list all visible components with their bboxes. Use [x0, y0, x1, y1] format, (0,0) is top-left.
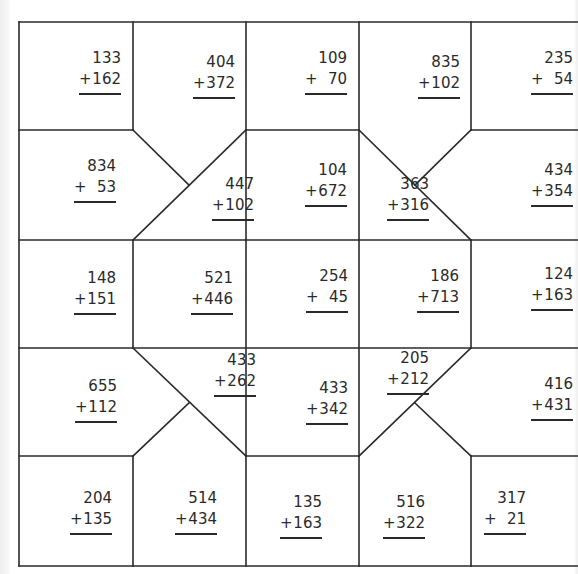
- answer-line: [383, 537, 425, 539]
- addend-top: 404: [171, 52, 235, 73]
- answer-line: [484, 533, 526, 535]
- addend-top: 521: [169, 268, 233, 289]
- addend-bottom: 163: [293, 513, 322, 534]
- answer-line: [531, 419, 573, 421]
- addend-bottom-row: +672: [305, 181, 347, 202]
- addend-bottom-row: +434: [175, 509, 217, 530]
- addition-problem: 205+212: [365, 348, 429, 395]
- addend-bottom-row: +212: [387, 369, 429, 390]
- addend-top: 363: [365, 174, 429, 195]
- addend-bottom-row: +21: [484, 509, 526, 530]
- addend-bottom-row: +713: [417, 287, 459, 308]
- plus-sign: +: [306, 287, 319, 308]
- answer-line: [75, 421, 117, 423]
- addition-problem: 835+102: [396, 52, 460, 99]
- addend-bottom: 54: [554, 69, 573, 90]
- addend-bottom-row: +45: [306, 287, 348, 308]
- addend-top: 655: [53, 376, 117, 397]
- answer-line: [387, 393, 429, 395]
- answer-line: [531, 93, 573, 95]
- addend-bottom-row: +354: [531, 181, 573, 202]
- answer-line: [418, 97, 460, 99]
- addition-problem: 104+672: [283, 160, 347, 207]
- addition-problem: 434+354: [509, 160, 573, 207]
- addend-top: 834: [52, 156, 116, 177]
- addend-bottom: 713: [430, 287, 459, 308]
- addition-problem: 433+342: [284, 378, 348, 425]
- addend-bottom-row: +262: [214, 371, 256, 392]
- answer-line: [306, 423, 348, 425]
- plus-sign: +: [531, 181, 544, 202]
- answer-line: [191, 313, 233, 315]
- addend-top: 204: [48, 488, 112, 509]
- addend-top: 135: [258, 492, 322, 513]
- addend-bottom: 672: [318, 181, 347, 202]
- answer-line: [70, 533, 112, 535]
- addend-bottom-row: +102: [418, 73, 460, 94]
- addition-problem: 404+372: [171, 52, 235, 99]
- plus-sign: +: [531, 69, 544, 90]
- addend-top: 109: [283, 48, 347, 69]
- addend-top: 148: [52, 268, 116, 289]
- addend-top: 835: [396, 52, 460, 73]
- addition-problem: 124+163: [509, 264, 573, 311]
- addition-problem: 655+112: [53, 376, 117, 423]
- addend-top: 133: [57, 48, 121, 69]
- plus-sign: +: [383, 513, 396, 534]
- addend-top: 186: [395, 266, 459, 287]
- answer-line: [531, 205, 573, 207]
- answer-line: [74, 313, 116, 315]
- plus-sign: +: [280, 513, 293, 534]
- addend-bottom: 431: [544, 395, 573, 416]
- addend-top: 317: [462, 488, 526, 509]
- addend-top: 433: [192, 350, 256, 371]
- plus-sign: +: [74, 177, 87, 198]
- addend-top: 447: [190, 174, 254, 195]
- addition-problem: 235+54: [509, 48, 573, 95]
- addend-bottom: 102: [431, 73, 460, 94]
- addend-bottom-row: +163: [531, 285, 573, 306]
- answer-line: [531, 309, 573, 311]
- answer-line: [74, 201, 116, 203]
- answer-line: [214, 395, 256, 397]
- plus-sign: +: [387, 369, 400, 390]
- plus-sign: +: [484, 509, 497, 530]
- answer-line: [175, 533, 217, 535]
- answer-line: [417, 311, 459, 313]
- addend-top: 124: [509, 264, 573, 285]
- addend-top: 235: [509, 48, 573, 69]
- addition-problem: 416+431: [509, 374, 573, 421]
- plus-sign: +: [387, 195, 400, 216]
- addend-bottom: 354: [544, 181, 573, 202]
- addition-problem: 133+162: [57, 48, 121, 95]
- plus-sign: +: [79, 69, 92, 90]
- plus-sign: +: [531, 395, 544, 416]
- addend-bottom: 53: [97, 177, 116, 198]
- plus-sign: +: [214, 371, 227, 392]
- addend-top: 205: [365, 348, 429, 369]
- addend-top: 254: [284, 266, 348, 287]
- addend-bottom-row: +163: [280, 513, 322, 534]
- answer-line: [306, 311, 348, 313]
- addend-bottom: 163: [544, 285, 573, 306]
- addend-bottom-row: +135: [70, 509, 112, 530]
- answer-line: [305, 93, 347, 95]
- answer-line: [79, 93, 121, 95]
- plus-sign: +: [531, 285, 544, 306]
- addend-bottom-row: +342: [306, 399, 348, 420]
- plus-sign: +: [75, 397, 88, 418]
- addition-problem: 135+163: [258, 492, 322, 539]
- addend-bottom: 45: [329, 287, 348, 308]
- addend-top: 514: [153, 488, 217, 509]
- addition-problem: 433+262: [192, 350, 256, 397]
- addend-top: 416: [509, 374, 573, 395]
- addend-bottom: 151: [87, 289, 116, 310]
- addend-bottom: 322: [396, 513, 425, 534]
- addend-top: 516: [361, 492, 425, 513]
- addend-top: 434: [509, 160, 573, 181]
- addend-bottom-row: +112: [75, 397, 117, 418]
- addend-bottom-row: +54: [531, 69, 573, 90]
- answer-line: [305, 205, 347, 207]
- addend-bottom-row: +151: [74, 289, 116, 310]
- plus-sign: +: [305, 69, 318, 90]
